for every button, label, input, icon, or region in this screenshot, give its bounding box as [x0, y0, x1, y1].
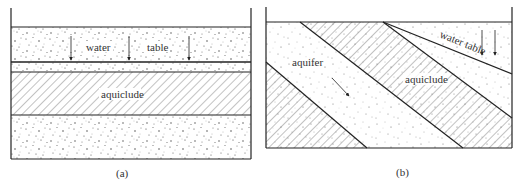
caption-a: (a): [116, 167, 129, 180]
label-water: water: [86, 41, 111, 53]
caption-b: (b): [396, 166, 409, 179]
panel-a: water table aquiclude (a): [11, 8, 251, 180]
unsaturated-zone-a: [11, 27, 251, 62]
label-aquiclude-b: aquiclude: [405, 73, 448, 85]
label-table: table: [147, 41, 168, 53]
saturated-zone-a: [11, 62, 251, 72]
lower-sand-layer-a: [11, 115, 251, 159]
label-aquifer: aquifer: [292, 56, 323, 68]
groundwater-diagram: water table aquiclude (a): [0, 0, 522, 190]
panel-b: aquifer aquiclude water table (b): [266, 7, 512, 179]
label-aquiclude-a: aquiclude: [101, 88, 144, 100]
